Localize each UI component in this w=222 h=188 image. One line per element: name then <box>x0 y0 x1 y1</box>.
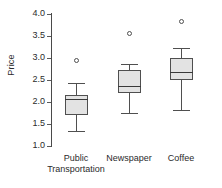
box-iqr <box>65 95 88 115</box>
lower-whisker-stem <box>129 93 130 113</box>
box-plot-chart: Price 4.0 3.5 3.0 2.5 2.0 1.5 1.0 <box>0 0 222 188</box>
lower-whisker-stem <box>181 80 182 110</box>
outlier-point <box>179 19 184 24</box>
median-line <box>118 86 141 87</box>
box-iqr <box>118 70 141 93</box>
median-line <box>65 99 88 100</box>
x-axis-label-coffee: Coffee <box>159 153 203 164</box>
x-axis-label-newspaper: Newspaper <box>99 153 159 164</box>
outlier-point <box>127 31 132 36</box>
lower-whisker-cap <box>68 131 85 132</box>
median-line <box>170 72 193 73</box>
x-label-line2: Transportation <box>36 164 116 175</box>
x-label-line1: Coffee <box>168 153 194 163</box>
upper-whisker-stem <box>181 48 182 58</box>
x-label-line1: Public <box>64 153 89 163</box>
outlier-point <box>74 58 79 63</box>
lower-whisker-cap <box>121 113 138 114</box>
upper-whisker-stem <box>76 83 77 95</box>
x-label-line1: Newspaper <box>106 153 152 163</box>
lower-whisker-cap <box>173 110 190 111</box>
lower-whisker-stem <box>76 115 77 131</box>
box-iqr <box>170 58 193 80</box>
